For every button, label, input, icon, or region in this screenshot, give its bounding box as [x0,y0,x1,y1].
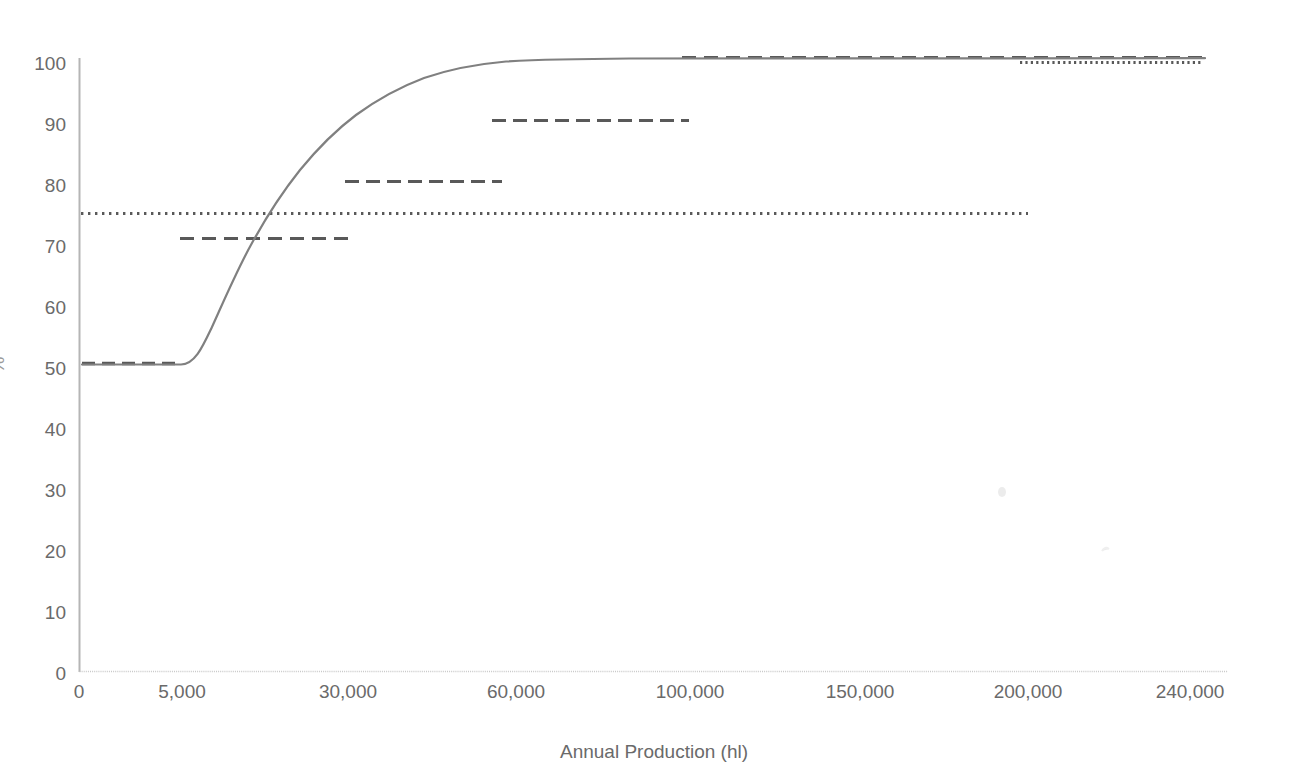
series-bands [81,58,1203,364]
y-tick-label-30: 30 [45,480,66,501]
y-tick-label-80: 80 [45,175,66,196]
y-tick-labels: 100 90 80 70 60 50 40 30 20 10 0 [34,53,66,684]
x-tick-label-150000: 150,000 [826,681,895,702]
x-tick-label-200000: 200,000 [994,681,1063,702]
series-excise-duty-curve [82,58,1205,364]
x-tick-label-60000: 60,000 [487,681,545,702]
x-tick-labels: 0 5,000 30,000 60,000 100,000 150,000 20… [74,681,1225,702]
x-tick-label-0: 0 [74,681,85,702]
y-tick-label-60: 60 [45,297,66,318]
scan-smudge-lower [1102,548,1109,551]
chart-container: 100 90 80 70 60 50 40 30 20 10 0 0 5,000… [0,0,1295,778]
y-axis-title: % [0,356,8,373]
chart-svg: 100 90 80 70 60 50 40 30 20 10 0 0 5,000… [0,0,1295,778]
y-tick-label-40: 40 [45,419,66,440]
y-tick-label-50: 50 [45,358,66,379]
x-tick-label-100000: 100,000 [656,681,725,702]
scan-smudge-upper [998,487,1006,497]
y-tick-label-70: 70 [45,236,66,257]
y-tick-label-20: 20 [45,541,66,562]
y-tick-label-10: 10 [45,602,66,623]
excise-duty-curve-path [82,58,1205,364]
y-tick-label-0: 0 [55,663,66,684]
x-axis-title: Annual Production (hl) [560,741,748,762]
y-axis-title-group: % [0,356,8,373]
x-tick-label-5000: 5,000 [158,681,206,702]
y-tick-label-100: 100 [34,53,66,74]
x-tick-label-240000: 240,000 [1156,681,1225,702]
axes-group [80,58,1229,672]
scan-artifacts [998,487,1109,551]
x-tick-label-30000: 30,000 [319,681,377,702]
y-tick-label-90: 90 [45,114,66,135]
